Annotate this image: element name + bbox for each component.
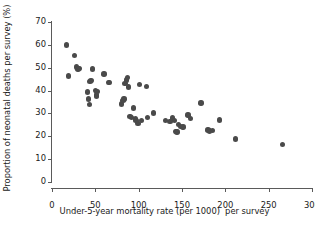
- data-point: [85, 89, 90, 94]
- data-point: [217, 117, 222, 122]
- data-point: [151, 110, 156, 115]
- y-tick-mark: [48, 45, 51, 46]
- x-tick-mark: [225, 188, 226, 192]
- y-tick-label-text: 50: [24, 63, 46, 71]
- data-point: [90, 66, 95, 71]
- y-tick-label-text: 10: [24, 154, 46, 162]
- data-point: [210, 128, 215, 133]
- y-tick-label-text: 60: [24, 40, 46, 48]
- data-point: [180, 124, 185, 129]
- y-tick-label: 10: [24, 154, 46, 164]
- x-tick-mark: [52, 188, 53, 192]
- data-point: [174, 129, 179, 134]
- y-tick-label: 0: [24, 177, 46, 187]
- data-point: [87, 102, 92, 107]
- y-tick-label: 50: [24, 63, 46, 73]
- y-tick-label: 40: [24, 86, 46, 96]
- y-tick-label-text: 30: [24, 108, 46, 116]
- y-tick-label: 30: [24, 108, 46, 118]
- data-point: [86, 96, 91, 101]
- scatter-chart-figure: Proportion of neonatal deaths per survey…: [0, 0, 315, 235]
- data-point: [145, 115, 150, 120]
- data-point: [139, 118, 144, 123]
- x-tick-mark: [312, 188, 313, 192]
- y-tick-mark: [48, 68, 51, 69]
- data-point: [101, 71, 106, 76]
- y-axis-title: Proportion of neonatal deaths per survey…: [0, 0, 14, 195]
- data-point: [126, 84, 131, 89]
- y-tick-mark: [48, 159, 51, 160]
- y-tick-label-text: 70: [24, 17, 46, 25]
- y-axis-title-text: Proportion of neonatal deaths per survey…: [2, 4, 12, 191]
- y-tick-label-text: 20: [24, 131, 46, 139]
- y-tick-mark: [48, 113, 51, 114]
- y-tick-mark: [48, 91, 51, 92]
- y-tick-mark: [48, 22, 51, 23]
- y-tick-label: 60: [24, 40, 46, 50]
- data-point: [198, 100, 203, 105]
- x-axis-title: Under-5-year mortality rate (per 1000) p…: [14, 206, 315, 216]
- y-tick-label-text: 40: [24, 86, 46, 94]
- data-point: [107, 80, 112, 85]
- x-tick-mark: [182, 188, 183, 192]
- y-tick-mark: [48, 182, 51, 183]
- y-tick-label: 20: [24, 131, 46, 141]
- y-tick-mark: [48, 136, 51, 137]
- data-point: [121, 96, 126, 101]
- data-point: [131, 105, 136, 110]
- x-tick-mark: [139, 188, 140, 192]
- x-tick-mark: [95, 188, 96, 192]
- y-tick-label: 70: [24, 17, 46, 27]
- x-tick-mark: [269, 188, 270, 192]
- y-tick-label-text: 0: [24, 177, 46, 185]
- data-point: [76, 66, 81, 71]
- data-point: [66, 73, 71, 78]
